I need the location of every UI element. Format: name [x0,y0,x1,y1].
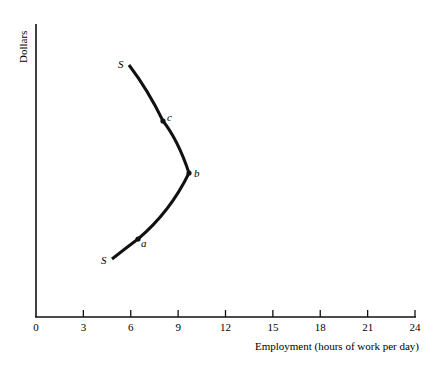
x-tick-label: 21 [362,321,373,333]
x-tick-label: 0 [33,321,39,333]
x-axis-label: Employment (hours of work per day) [255,340,419,353]
label-s-bottom: S [101,254,107,266]
supply-curve-chart: 03691215182124 Dollars Employment (hours… [0,0,440,367]
point-b [186,170,191,175]
y-axis-label: Dollars [17,31,29,63]
point-a [135,236,140,241]
supply-curve [112,65,189,259]
label-a: a [141,237,147,249]
label-s-top: S [118,58,124,70]
point-c [160,118,165,123]
x-tick-label: 3 [81,321,87,333]
x-tick-label: 12 [220,321,231,333]
x-tick-label: 18 [315,321,327,333]
x-tick-label: 9 [175,321,181,333]
label-b: b [194,167,200,179]
label-c: c [167,111,172,123]
x-tick-label: 15 [267,321,279,333]
x-tick-label: 6 [128,321,134,333]
x-tick-label: 24 [410,321,422,333]
x-tick-labels: 03691215182124 [33,321,421,333]
x-axis-ticks [83,310,415,317]
